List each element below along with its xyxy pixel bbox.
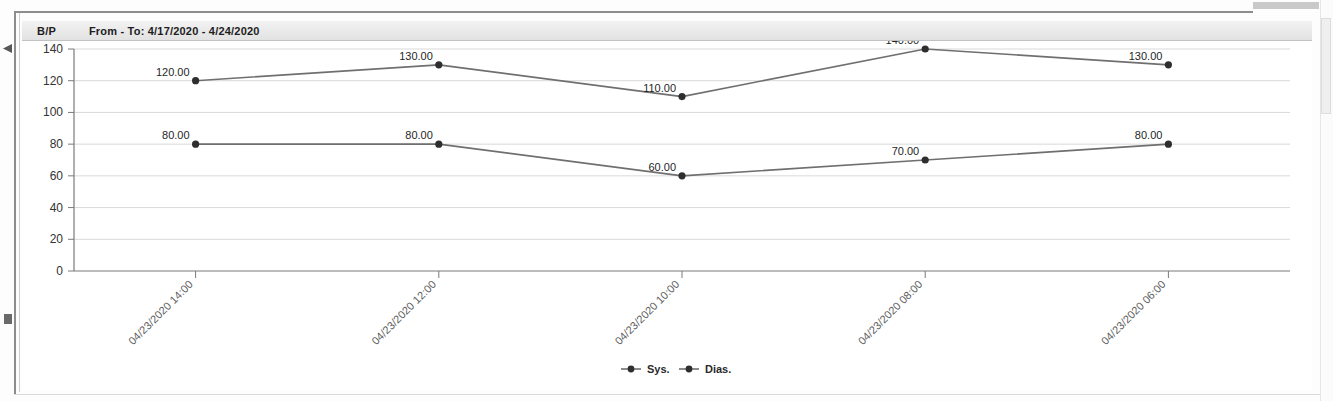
axes (74, 49, 1290, 271)
y-axis-ticks: 020406080100120140 (43, 42, 74, 278)
page-border-left (14, 11, 16, 394)
data-point-label: 130.00 (399, 50, 433, 62)
page-border-bottom (14, 394, 1327, 395)
data-point[interactable] (922, 45, 929, 52)
data-point[interactable] (922, 156, 929, 163)
data-point[interactable] (678, 172, 685, 179)
y-tick-label: 60 (50, 169, 64, 183)
data-point-label: 70.00 (892, 145, 920, 157)
data-point[interactable] (435, 141, 442, 148)
data-point-label: 80.00 (1135, 129, 1163, 141)
data-point-label: 130.00 (1129, 50, 1163, 62)
y-tick-label: 140 (43, 42, 63, 56)
scanned-report-page: B/P From - To: 4/17/2020 - 4/24/2020 020… (0, 0, 1333, 401)
data-point[interactable] (192, 77, 199, 84)
data-point-label: 120.00 (156, 66, 190, 78)
x-tick-label: 04/23/2020 06:00 (1099, 278, 1168, 347)
data-point[interactable] (1165, 141, 1172, 148)
page-title: B/P (37, 25, 56, 37)
data-point[interactable] (1165, 61, 1172, 68)
legend-label[interactable]: Dias. (705, 363, 731, 375)
y-tick-label: 40 (50, 201, 64, 215)
vertical-scrollbar-thumb[interactable] (1321, 18, 1331, 114)
data-point-label: 60.00 (648, 161, 676, 173)
x-tick-label: 04/23/2020 10:00 (612, 278, 681, 347)
left-marker-icon (3, 44, 12, 53)
data-point-label: 110.00 (643, 82, 676, 94)
vertical-scrollbar[interactable] (1320, 0, 1333, 401)
legend-label[interactable]: Sys. (647, 363, 670, 375)
y-tick-label: 0 (56, 264, 63, 278)
page-border-top (14, 11, 1253, 13)
report-header: B/P From - To: 4/17/2020 - 4/24/2020 (22, 21, 1312, 41)
series-line-sys (196, 49, 1169, 97)
data-point-labels: 120.00130.00110.00140.00130.0080.0080.00… (156, 41, 1162, 173)
legend-marker-icon (686, 366, 693, 373)
data-point-label: 80.00 (405, 129, 433, 141)
data-point[interactable] (435, 61, 442, 68)
x-axis-ticks: 04/23/2020 14:0004/23/2020 12:0004/23/20… (126, 271, 1168, 347)
y-tick-label: 20 (50, 232, 64, 246)
date-range-label: From - To: 4/17/2020 - 4/24/2020 (89, 25, 260, 37)
horizontal-scrollbar-thumb[interactable] (1253, 2, 1319, 9)
x-tick-label: 04/23/2020 12:00 (369, 278, 438, 347)
x-tick-label: 04/23/2020 14:00 (126, 278, 195, 347)
data-point[interactable] (192, 141, 199, 148)
bp-line-chart: 020406080100120140 04/23/2020 14:0004/23… (22, 41, 1312, 391)
series-line-dias (196, 144, 1169, 176)
data-point-label: 140.00 (886, 41, 920, 46)
y-tick-label: 80 (50, 137, 64, 151)
data-point[interactable] (678, 93, 685, 100)
chart-legend: Sys.Dias. (621, 363, 731, 375)
x-tick-label: 04/23/2020 08:00 (856, 278, 925, 347)
page-border-left-inner (19, 13, 20, 392)
y-tick-label: 100 (43, 105, 63, 119)
chart-canvas: 020406080100120140 04/23/2020 14:0004/23… (22, 41, 1312, 391)
data-point-label: 80.00 (162, 129, 190, 141)
legend-marker-icon (628, 366, 635, 373)
y-tick-label: 120 (43, 74, 63, 88)
left-marker-secondary-icon (4, 314, 12, 324)
